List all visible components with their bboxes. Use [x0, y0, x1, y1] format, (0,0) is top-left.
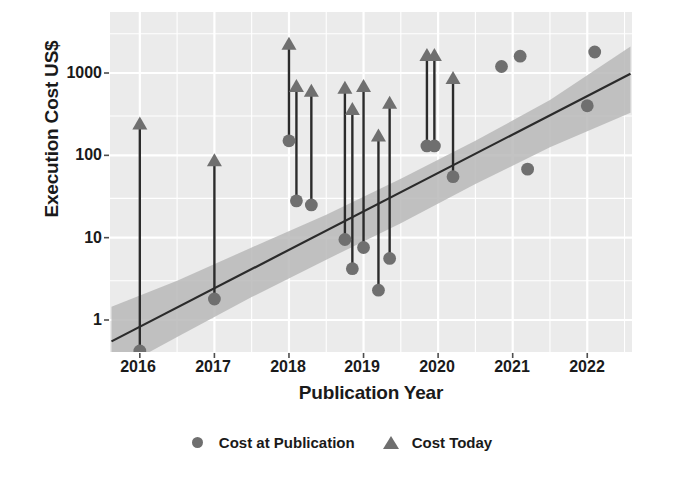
chart-legend: Cost at Publication Cost Today [0, 432, 680, 452]
x-tick-2021: 2021 [477, 358, 547, 376]
legend-label-cost-at-publication: Cost at Publication [219, 434, 355, 451]
cost-at-publication-marker [588, 46, 601, 59]
y-tick-100: 100 [42, 146, 102, 164]
cost-at-publication-marker [305, 199, 318, 212]
x-tick-2016: 2016 [103, 358, 173, 376]
cost-at-publication-marker [581, 99, 594, 112]
cost-at-publication-marker [290, 194, 303, 207]
cost-at-publication-marker [357, 241, 370, 254]
legend-item-cost-at-publication: Cost at Publication [188, 432, 355, 452]
y-tick-1: 1 [42, 311, 102, 329]
cost-at-publication-marker [383, 252, 396, 265]
x-axis-label: Publication Year [110, 382, 632, 404]
scatter-plot-canvas [0, 0, 680, 487]
y-axis-tick-labels: 1000 100 10 1 [38, 0, 102, 487]
y-tick-1000: 1000 [42, 64, 102, 82]
y-tick-10: 10 [42, 229, 102, 247]
circle-marker-icon [188, 432, 208, 452]
triangle-marker-icon [381, 432, 401, 452]
x-tick-2022: 2022 [552, 358, 622, 376]
cost-at-publication-marker [521, 163, 534, 176]
cost-at-publication-marker [447, 170, 460, 183]
legend-item-cost-today: Cost Today [381, 432, 493, 452]
cost-at-publication-marker [339, 233, 352, 246]
chart-figure: Execution Cost US$ 1000 100 10 1 2016 20… [0, 0, 680, 487]
x-tick-2018: 2018 [253, 358, 323, 376]
cost-at-publication-marker [428, 140, 441, 153]
cost-at-publication-marker [372, 284, 385, 297]
x-tick-2017: 2017 [178, 358, 248, 376]
legend-label-cost-today: Cost Today [412, 434, 493, 451]
cost-at-publication-marker [514, 50, 527, 63]
x-tick-2020: 2020 [402, 358, 472, 376]
cost-at-publication-marker [208, 293, 221, 306]
cost-at-publication-marker [346, 262, 359, 275]
cost-at-publication-marker [283, 134, 296, 147]
x-tick-2019: 2019 [327, 358, 397, 376]
cost-at-publication-marker [495, 60, 508, 73]
